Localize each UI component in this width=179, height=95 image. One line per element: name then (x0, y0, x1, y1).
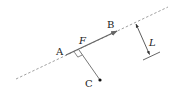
label-f: F (78, 35, 87, 46)
geometry-diagram: A B F C L (0, 0, 179, 95)
vector-ab (66, 31, 117, 55)
dimension-l (136, 24, 150, 55)
label-l: L (148, 37, 156, 48)
label-a: A (55, 46, 64, 57)
point-c (98, 78, 101, 81)
perpendicular-cf (79, 50, 100, 80)
label-c: C (85, 78, 93, 89)
dimension-tick (143, 52, 160, 60)
label-b: B (107, 19, 114, 30)
